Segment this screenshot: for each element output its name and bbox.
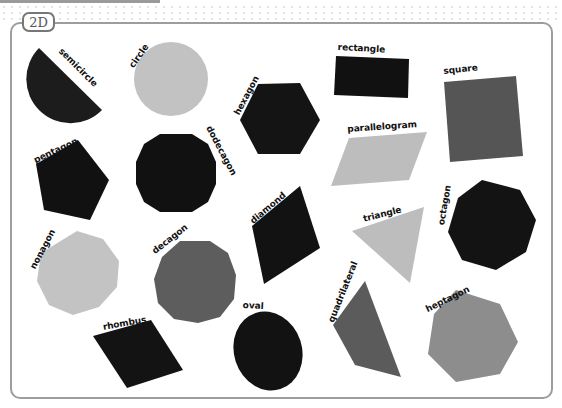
octagon-shape	[448, 180, 536, 270]
section-tag: 2D	[22, 12, 55, 32]
oval-label: oval	[242, 300, 263, 311]
rectangle-shape	[334, 56, 410, 100]
parallelogram-shape	[331, 132, 429, 186]
square-shape	[444, 76, 524, 162]
dodecagon-shape	[136, 132, 216, 214]
decagon-shape	[154, 241, 236, 323]
oval-shape	[231, 310, 305, 392]
top-rule	[0, 0, 160, 3]
diamond-shape	[252, 186, 322, 286]
dotted-background	[0, 4, 562, 22]
